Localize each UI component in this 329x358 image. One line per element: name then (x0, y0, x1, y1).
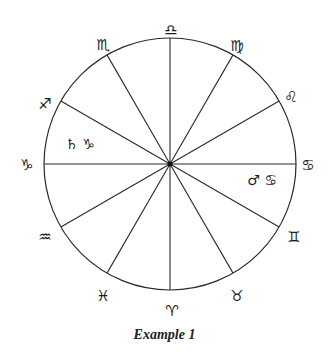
aries-icon: ♈ (165, 304, 178, 319)
house-cusp-line (107, 55, 170, 164)
scorpio-icon: ♏ (96, 38, 109, 53)
house-cusp-line (170, 101, 279, 164)
house-cusp-line (61, 101, 170, 164)
cancer-icon: ♋ (301, 158, 314, 173)
house-cusp-line (170, 55, 233, 164)
house-cusp-line (170, 164, 233, 273)
capricorn-icon: ♑ (20, 158, 33, 173)
gemini-icon: ♊ (287, 230, 300, 245)
leo-icon: ♌ (284, 90, 297, 105)
virgo-icon: ♍ (230, 39, 243, 54)
pisces-icon: ♓ (96, 289, 109, 304)
libra-icon: ♎ (164, 23, 177, 38)
mars-in-cancer-label: ♂ ♋ (247, 173, 277, 187)
taurus-icon: ♉ (230, 289, 243, 304)
saturn-in-capricorn-label: ♄ ♑ (65, 137, 95, 151)
figure-caption: Example 1 (0, 327, 329, 343)
house-cusp-line (61, 164, 170, 227)
sagittarius-icon: ♐ (38, 97, 51, 112)
center-hub (168, 162, 173, 167)
house-cusp-line (107, 164, 170, 273)
aquarius-icon: ♒ (38, 230, 51, 245)
